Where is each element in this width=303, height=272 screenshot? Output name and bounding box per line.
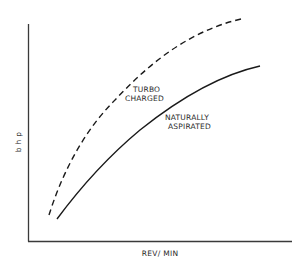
na-label-line1: NATURALLY	[165, 113, 209, 122]
y-axis-title: b h p	[14, 132, 23, 153]
turbo-label-line2: CHARGED	[125, 94, 164, 103]
turbo-label-line1: TURBO	[132, 85, 160, 94]
x-axis-title: REV/ MIN	[142, 249, 179, 258]
turbo-charged-curve	[49, 19, 241, 215]
na-label-line2: ASPIRATED	[168, 122, 211, 131]
bhp-vs-rpm-chart: TURBO CHARGED NATURALLY ASPIRATED REV/ M…	[0, 0, 303, 272]
